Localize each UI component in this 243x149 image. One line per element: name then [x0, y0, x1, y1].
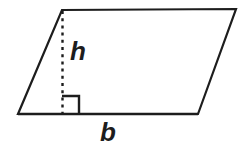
- diagram-canvas: [0, 0, 243, 149]
- parallelogram-diagram: h b: [0, 0, 243, 149]
- base-label: b: [100, 119, 116, 145]
- height-label: h: [70, 38, 86, 64]
- parallelogram-outline: [18, 9, 236, 114]
